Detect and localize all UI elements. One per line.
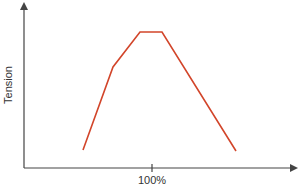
x-tick-label-100: 100%	[132, 174, 172, 186]
tension-curve	[83, 32, 236, 151]
tension-chart	[0, 0, 306, 189]
y-axis-label: Tension	[1, 59, 15, 111]
